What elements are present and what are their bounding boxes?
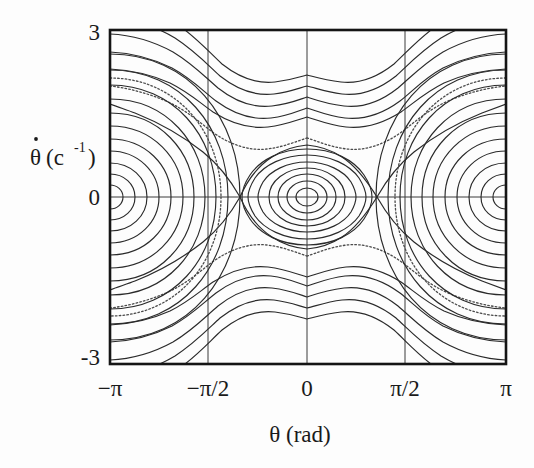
ytick-label-bottom: -3: [81, 345, 100, 370]
x-axis-title: θ (rad): [269, 422, 330, 447]
xtick-label-neg-pi: −π: [98, 376, 123, 401]
ytick-label-mid: 0: [89, 185, 101, 210]
xtick-label-zero: 0: [301, 376, 313, 401]
phase-portrait-figure: 3 0 -3 −π −π/2 0 π/2 π θ (rad) θ (c -1 ): [0, 0, 534, 468]
y-axis-title-unit-exponent: -1: [74, 140, 86, 155]
y-axis-title-unit-close: ): [88, 145, 96, 170]
y-axis-title-unit-open: (c: [46, 145, 64, 170]
xtick-label-pi: π: [500, 376, 512, 401]
y-axis-title-overdot: [34, 137, 38, 141]
xtick-label-half-pi: π/2: [390, 376, 420, 401]
y-axis-title-symbol: θ: [30, 145, 41, 170]
figure-page: 3 0 -3 −π −π/2 0 π/2 π θ (rad) θ (c -1 ): [0, 0, 534, 468]
ytick-label-top: 3: [89, 20, 101, 45]
xtick-label-neg-half-pi: −π/2: [187, 376, 229, 401]
